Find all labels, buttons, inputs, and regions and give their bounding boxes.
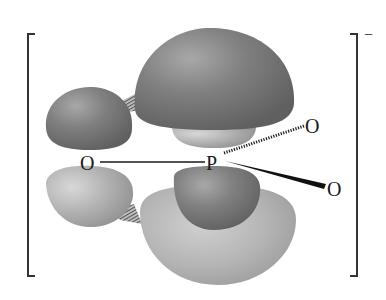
atom-label-lower-right-oxygen: O bbox=[327, 178, 341, 200]
atom-label-upper-right-oxygen: O bbox=[305, 115, 319, 137]
left-bracket bbox=[28, 34, 35, 276]
charge-sign: − bbox=[364, 26, 373, 43]
atom-label-left-oxygen: O bbox=[80, 152, 94, 174]
phosphorus-upper-large-lobe bbox=[135, 28, 294, 130]
atom-label-phosphorus: P bbox=[206, 152, 217, 174]
orbital-diagram: − bbox=[0, 0, 386, 300]
right-bracket bbox=[350, 34, 357, 276]
oxygen-upper-lobe bbox=[46, 87, 132, 150]
